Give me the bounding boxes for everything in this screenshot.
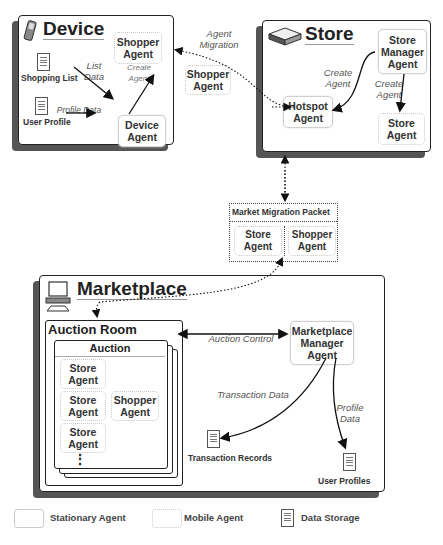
store-agent-in-store: Store Agent	[378, 113, 425, 145]
auction-store-agent-1: Store Agent	[60, 359, 106, 389]
migrating-shopper-agent: Shopper Agent	[185, 65, 231, 95]
packet-shopper-agent: Shopper Agent	[288, 226, 336, 256]
packet-title: Market Migration Packet	[232, 207, 330, 217]
computer-icon	[45, 281, 71, 313]
auction-shopper-agent: Shopper Agent	[111, 391, 159, 421]
device-region: Device Shopping List User Profile List D…	[18, 15, 174, 145]
more-agents-ellipsis: ⋮	[73, 451, 87, 467]
shopping-list-label: Shopping List	[21, 73, 78, 83]
profile-data-label: Profile Data	[54, 105, 104, 116]
list-data-label: List Data	[79, 60, 109, 82]
create-agent-label-store-right: Create Agent	[373, 78, 405, 100]
hotspot-agent: Hotspot Agent	[283, 96, 333, 128]
create-agent-label-device: Create Agent	[126, 62, 152, 84]
legend-mobile-label: Mobile Agent	[184, 512, 243, 523]
legend-storage-doc-icon	[281, 509, 294, 527]
shopping-list-doc-icon	[37, 53, 50, 71]
legend: Stationary Agent Mobile Agent Data Stora…	[0, 507, 443, 529]
store-manager-agent: Store Manager Agent	[378, 29, 427, 74]
legend-stationary-swatch	[14, 509, 44, 528]
auction-title: Auction	[55, 342, 165, 357]
marketplace-manager-agent: Marketplace Manager Agent	[290, 321, 354, 365]
legend-stationary-label: Stationary Agent	[50, 512, 126, 523]
auction-store-agent-3: Store Agent	[60, 423, 106, 453]
packet-store-agent: Store Agent	[234, 226, 282, 256]
device-shopper-agent: Shopper Agent	[114, 32, 162, 64]
device-title: Device	[43, 19, 104, 40]
auction-control-label: Auction Control	[206, 333, 276, 344]
transaction-data-label: Transaction Data	[215, 389, 291, 400]
user-profiles-doc-icon	[343, 453, 356, 471]
agent-migration-label: Agent Migration	[198, 28, 240, 50]
store-box-icon	[267, 26, 303, 46]
auction-store-agent-2: Store Agent	[60, 391, 106, 421]
phone-icon	[23, 20, 37, 42]
store-title: Store	[305, 24, 354, 45]
user-profile-doc-icon	[35, 97, 48, 115]
legend-mobile-swatch	[152, 509, 182, 528]
device-agent: Device Agent	[118, 115, 166, 147]
create-agent-label-store-left: Create Agent	[322, 67, 354, 89]
profile-data-label-market: Profile Data	[326, 402, 374, 424]
marketplace-region: Marketplace Auction Room Auction Store A…	[39, 275, 385, 492]
auction-room-title: Auction Room	[48, 322, 137, 337]
market-migration-packet: Market Migration Packet Store Agent Shop…	[229, 203, 338, 262]
store-region: Store Store Manager Agent Create Agent C…	[262, 20, 431, 152]
legend-storage-label: Data Storage	[301, 512, 360, 523]
user-profiles-label: User Profiles	[318, 476, 370, 486]
auction-card: Auction Store Agent Store Agent Shopper …	[54, 340, 168, 469]
auction-room: Auction Room Auction Store Agent Store A…	[45, 320, 183, 486]
transaction-records-doc-icon	[207, 430, 220, 448]
marketplace-title: Marketplace	[77, 279, 187, 300]
user-profile-label: User Profile	[23, 117, 71, 127]
transaction-records-label: Transaction Records	[188, 453, 272, 463]
